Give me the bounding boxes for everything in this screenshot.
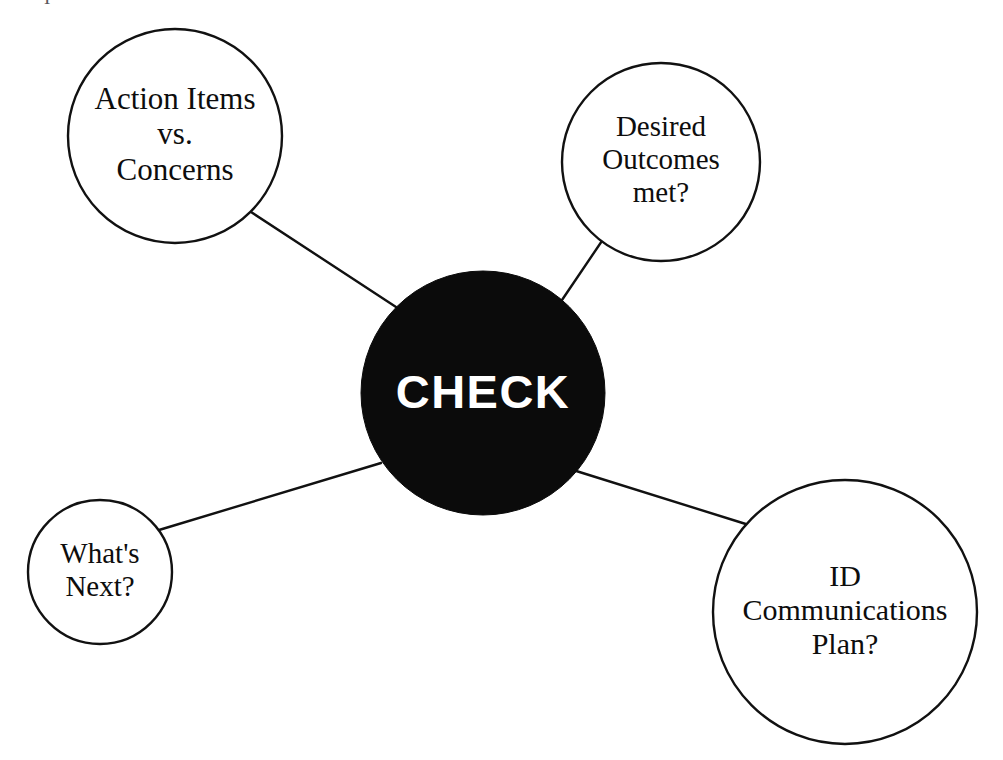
connector-bottom-right <box>573 470 749 525</box>
node-circle-action-items-vs-concerns[interactable] <box>68 29 282 243</box>
node-circle-desired-outcomes-met[interactable] <box>562 63 760 261</box>
connector-top-left <box>251 212 396 307</box>
hub-circle-check[interactable] <box>361 271 605 515</box>
diagram-vector-layer <box>0 0 1003 760</box>
node-circle-whats-next[interactable] <box>28 500 172 644</box>
node-circle-id-communications-plan[interactable] <box>713 480 977 744</box>
connector-bottom-left <box>159 463 381 530</box>
diagram-canvas: I Action Items vs. Concerns Desired Outc… <box>0 0 1003 760</box>
